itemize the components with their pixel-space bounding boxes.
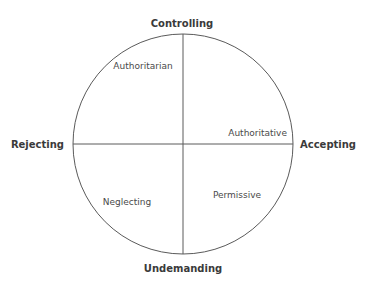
quadrant-label-authoritative: Authoritative: [228, 128, 287, 138]
axis-label-accepting: Accepting: [300, 139, 356, 150]
axis-label-rejecting: Rejecting: [11, 139, 64, 150]
quadrant-label-permissive: Permissive: [213, 190, 262, 200]
axis-label-controlling: Controlling: [151, 18, 213, 29]
quadrant-label-authoritarian: Authoritarian: [113, 61, 172, 71]
axis-label-undemanding: Undemanding: [144, 263, 222, 274]
quadrant-label-neglecting: Neglecting: [103, 197, 151, 207]
parenting-styles-diagram: Controlling Undemanding Rejecting Accept…: [0, 0, 367, 288]
